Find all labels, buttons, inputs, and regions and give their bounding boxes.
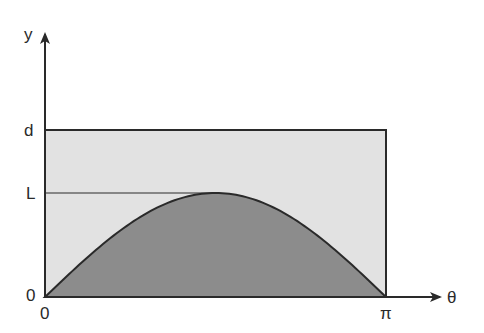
y-tick-l: L — [26, 185, 35, 202]
y-tick-0: 0 — [26, 287, 35, 304]
y-axis-label: y — [24, 26, 33, 43]
x-tick-0: 0 — [40, 305, 49, 322]
theta-axis-label: θ — [447, 289, 456, 306]
diagram-svg — [0, 0, 484, 333]
x-tick-pi: π — [380, 305, 392, 322]
diagram-canvas: y θ d L 0 0 π — [0, 0, 484, 333]
y-tick-d: d — [24, 122, 33, 139]
